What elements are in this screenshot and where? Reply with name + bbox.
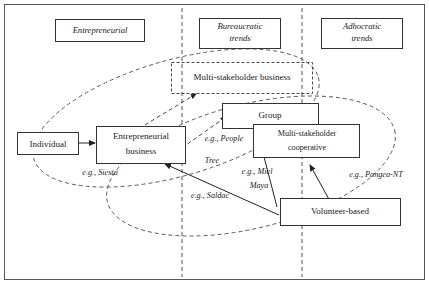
example-pangea-nt: e.g., Pangea-NT	[349, 170, 404, 179]
example-people-tree-line1: e.g., People	[205, 134, 244, 143]
node-volunteer-based: Volunteer-based	[281, 199, 401, 226]
bureaucratic-header-line1: Bureaucratic	[217, 21, 262, 31]
entrepreneurial-business-line1: Entrepreneurial	[113, 131, 169, 141]
diagram-canvas: Entrepreneurial Bureaucratic trends Adho…	[0, 0, 429, 284]
example-miel-maya: e.g., Miel Maya	[242, 167, 274, 190]
group-label: Group	[259, 110, 282, 120]
example-siesta: e.g., Siesta	[82, 168, 117, 177]
multi-stakeholder-business-label: Multi-stakeholder business	[193, 72, 291, 82]
example-miel-maya-line1: e.g., Miel	[242, 167, 274, 176]
node-multi-stakeholder-business: Multi-stakeholder business	[172, 63, 313, 94]
node-entrepreneurial-business: Entrepreneurial business	[97, 127, 186, 164]
multi-stakeholder-cooperative-line2: cooperative	[288, 143, 327, 152]
individual-label: Individual	[30, 139, 67, 149]
column-header-adhocratic: Adhocratic trends	[322, 19, 403, 49]
adhocratic-header-line1: Adhocratic	[342, 21, 381, 31]
bureaucratic-header-line2: trends	[229, 33, 251, 43]
node-multi-stakeholder-cooperative: Multi-stakeholder cooperative	[254, 125, 360, 158]
entrepreneurial-header-label: Entrepreneurial	[72, 25, 128, 35]
column-header-entrepreneurial: Entrepreneurial	[56, 20, 145, 42]
example-pangea-nt-label: e.g., Pangea-NT	[349, 170, 404, 179]
multi-stakeholder-cooperative-line1: Multi-stakeholder	[278, 129, 337, 138]
example-siesta-label: e.g., Siesta	[82, 168, 117, 177]
example-saldac: e.g., Saldac	[191, 191, 230, 200]
volunteer-based-label: Volunteer-based	[311, 206, 370, 216]
fair-trade-evolution-diagram: Entrepreneurial Bureaucratic trends Adho…	[0, 0, 429, 284]
adhocratic-header-line2: trends	[351, 33, 373, 43]
node-individual: Individual	[18, 133, 79, 155]
entrepreneurial-business-line2: business	[126, 146, 157, 156]
column-header-bureaucratic: Bureaucratic trends	[200, 19, 281, 49]
example-people-tree-line2: Tree	[205, 156, 220, 165]
example-miel-maya-line2: Maya	[249, 181, 269, 190]
example-people-tree: e.g., People Tree	[205, 134, 244, 165]
arrow-volunteer-based-to-multi-stakeholder-cooperative	[310, 165, 330, 201]
example-saldac-label: e.g., Saldac	[191, 191, 230, 200]
